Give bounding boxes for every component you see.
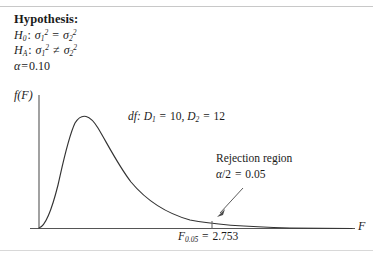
rejection-region-label: Rejection region — [216, 152, 292, 164]
critical-subscript: 0.05 — [185, 235, 198, 244]
critical-value-number: 2.753 — [212, 230, 238, 242]
degrees-of-freedom-label: df: D1 = 10, D2 = 12 — [128, 110, 225, 122]
f-distribution-figure: Hypothesis: H0: σ12 = σ22 HA: σ12 ≠ σ22 … — [0, 0, 373, 255]
plot-area — [0, 0, 373, 255]
f-distribution-curve — [39, 116, 352, 228]
critical-value-label: F0.05 = 2.753 — [178, 230, 238, 242]
rejection-alpha-label: α/2 = 0.05 — [216, 168, 265, 180]
x-axis-label: F — [358, 219, 365, 234]
rejection-alpha-value: 0.05 — [245, 168, 265, 180]
rejection-region-arrow-shaft — [220, 188, 243, 213]
rejection-region-arrow-head — [217, 209, 225, 217]
